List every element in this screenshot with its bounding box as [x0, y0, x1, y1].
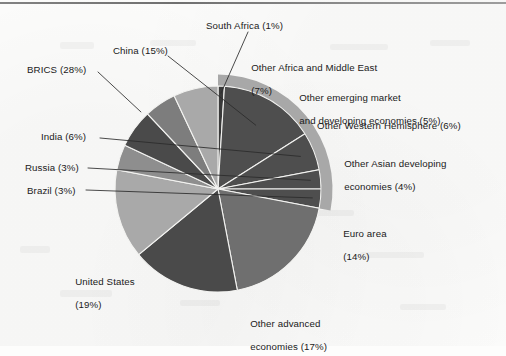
label-other-advanced-economies: Other advanced economies (17%) — [239, 306, 327, 356]
label-india: India (6%) — [41, 131, 86, 143]
label-other-emerging-line2: and developing economies (5%) — [299, 115, 440, 126]
leader-brics — [98, 72, 141, 112]
label-euro-area: Euro area (14%) — [332, 216, 387, 274]
label-united-states-line1: United States — [75, 276, 134, 287]
label-russia: Russia (3%) — [25, 162, 79, 174]
label-united-states-line2: (19%) — [75, 299, 101, 310]
label-south-africa: South Africa (1%) — [206, 20, 283, 32]
label-brazil: Brazil (3%) — [27, 185, 75, 197]
label-other-advanced-line1: Other advanced — [250, 318, 320, 329]
label-other-asian-developing: Other Asian developing economies (4%) — [333, 146, 447, 204]
label-other-advanced-line2: economies (17%) — [250, 341, 327, 352]
label-united-states: United States (19%) — [64, 264, 135, 322]
label-euro-area-line2: (14%) — [343, 251, 369, 262]
label-other-africa-line1: Other Africa and Middle East — [251, 62, 377, 73]
label-china: China (15%) — [113, 45, 168, 57]
label-other-asian-line1: Other Asian developing — [344, 158, 446, 169]
label-other-africa-middle-east: Other Africa and Middle East (7%) — [240, 50, 377, 108]
label-other-asian-line2: economies (4%) — [344, 181, 415, 192]
label-euro-area-line1: Euro area — [343, 228, 386, 239]
label-brics: BRICS (28%) — [27, 64, 86, 76]
label-other-africa-line2: (7%) — [251, 85, 272, 96]
